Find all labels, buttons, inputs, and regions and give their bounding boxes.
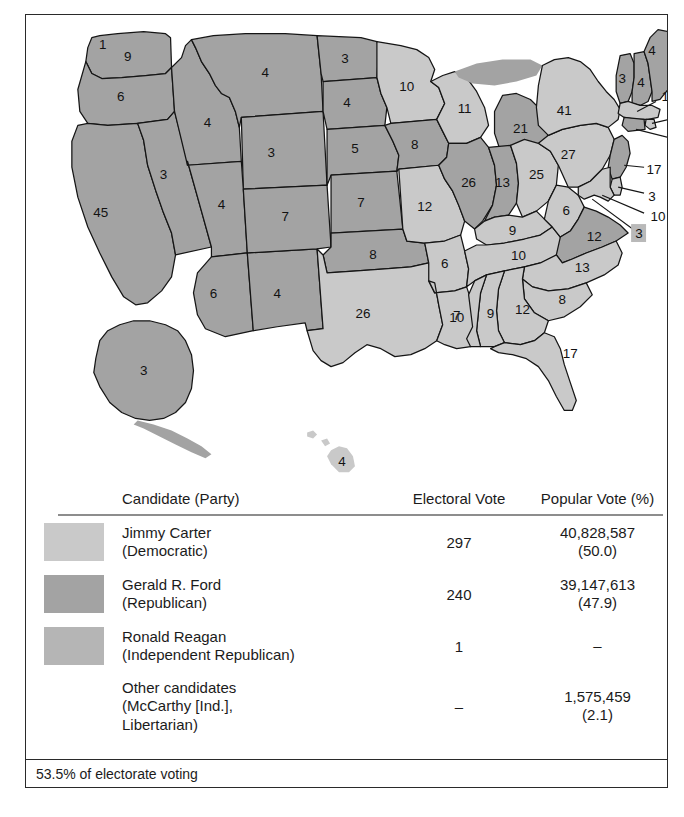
ev-label-nd: 3 bbox=[341, 51, 348, 66]
ev-label-sd: 4 bbox=[343, 95, 351, 110]
popular-vote-cell-carter: 40,828,587 (50.0) bbox=[528, 516, 667, 568]
popular-pct-carter: (50.0) bbox=[528, 542, 667, 560]
header-electoral-vote: Electoral Vote bbox=[390, 476, 528, 514]
ev-label-az: 6 bbox=[210, 286, 217, 301]
candidate-cell-carter: Jimmy Carter (Democratic) bbox=[122, 516, 390, 568]
ev-label-nv: 3 bbox=[160, 167, 167, 182]
ev-label-ia: 8 bbox=[411, 137, 418, 152]
ev-label-pa: 27 bbox=[561, 147, 576, 162]
legend-swatch-cell-other bbox=[26, 672, 122, 741]
popular-vote-cell-ford: 39,147,613 (47.9) bbox=[528, 568, 667, 620]
legend-swatch-reagan bbox=[44, 627, 104, 665]
legend-swatch-cell-reagan bbox=[26, 620, 122, 672]
popular-votes-ford: 39,147,613 bbox=[528, 576, 667, 594]
ev-label-me: 4 bbox=[648, 43, 656, 58]
header-popular-vote: Popular Vote (%) bbox=[528, 476, 667, 514]
ev-label-nm: 4 bbox=[273, 286, 281, 301]
candidate-party-carter: (Democratic) bbox=[122, 542, 390, 560]
candidate-party-other: (McCarthy [Ind.], bbox=[122, 697, 390, 715]
table-row: Gerald R. Ford (Republican) 240 39,147,6… bbox=[26, 568, 667, 620]
table-row: Ronald Reagan (Independent Republican) 1… bbox=[26, 620, 667, 672]
ev-label-ak: 3 bbox=[140, 363, 147, 378]
table-row: Other candidates (McCarthy [Ind.], Liber… bbox=[26, 672, 667, 741]
callout-line-de bbox=[618, 187, 644, 193]
table-header-row: Candidate (Party) Electoral Vote Popular… bbox=[26, 476, 667, 514]
popular-vote-cell-other: 1,575,459 (2.1) bbox=[528, 672, 667, 741]
candidate-name-reagan: Ronald Reagan bbox=[122, 628, 390, 646]
ev-label-ar: 6 bbox=[441, 256, 448, 271]
ev-label-vt: 3 bbox=[618, 71, 625, 86]
ev-label-ms: 7 bbox=[453, 308, 460, 323]
state-ri bbox=[645, 119, 656, 129]
legend-swatch-cell-carter bbox=[26, 516, 122, 568]
state-az bbox=[193, 253, 253, 337]
popular-vote-reagan: – bbox=[528, 620, 667, 672]
ev-label-wa: 9 bbox=[124, 49, 131, 64]
ev-label-co: 7 bbox=[281, 209, 288, 224]
ev-label-mt: 4 bbox=[262, 65, 270, 80]
candidate-name-ford: Gerald R. Ford bbox=[122, 576, 390, 594]
ev-label-in: 13 bbox=[495, 175, 510, 190]
ev-label-ga: 12 bbox=[515, 302, 530, 317]
ev-label-dc: 3 bbox=[635, 226, 642, 241]
state-ak-aleutians bbox=[134, 420, 212, 458]
ev-label-oh: 25 bbox=[529, 167, 544, 182]
popular-pct-ford: (47.9) bbox=[528, 594, 667, 612]
ev-label-va: 12 bbox=[587, 229, 602, 244]
ev-label-nj: 17 bbox=[647, 162, 662, 177]
state-ny bbox=[536, 58, 620, 136]
candidate-cell-reagan: Ronald Reagan (Independent Republican) bbox=[122, 620, 390, 672]
ev-label-wv: 6 bbox=[563, 203, 570, 218]
state-sd bbox=[323, 78, 387, 130]
ev-label-wi: 11 bbox=[458, 101, 472, 116]
state-nm bbox=[247, 249, 323, 331]
ev-label-mi: 21 bbox=[513, 121, 528, 136]
table-row: Jimmy Carter (Democratic) 297 40,828,587… bbox=[26, 516, 667, 568]
us-map-svg: 1 9 6 45 3 4 4 3 4 6 4 7 3 4 5 7 8 26 10… bbox=[26, 15, 667, 476]
state-ct bbox=[622, 117, 645, 131]
ev-label-wy: 3 bbox=[267, 145, 274, 160]
ev-label-ok: 8 bbox=[369, 247, 376, 262]
callout-line-nj bbox=[624, 165, 644, 167]
candidate-party-reagan: (Independent Republican) bbox=[122, 646, 390, 664]
ev-label-wa-split: 1 bbox=[99, 37, 106, 52]
popular-votes-other: 1,575,459 bbox=[528, 688, 667, 706]
turnout-footnote: 53.5% of electorate voting bbox=[26, 760, 667, 789]
electoral-vote-other: – bbox=[390, 672, 528, 741]
legend-swatch-carter bbox=[44, 523, 104, 561]
ev-label-id: 4 bbox=[204, 115, 212, 130]
ev-label-ks: 7 bbox=[357, 195, 364, 210]
ev-label-ky: 9 bbox=[509, 223, 516, 238]
electoral-vote-ford: 240 bbox=[390, 568, 528, 620]
ev-label-ca: 45 bbox=[93, 205, 108, 220]
candidate-name-carter: Jimmy Carter bbox=[122, 524, 390, 542]
candidate-name-other: Other candidates bbox=[122, 679, 390, 697]
electoral-vote-reagan: 1 bbox=[390, 620, 528, 672]
ev-label-mo: 12 bbox=[417, 199, 432, 214]
state-fl bbox=[491, 333, 577, 411]
popular-pct-other: (2.1) bbox=[528, 706, 667, 724]
ev-label-ma: 14 bbox=[662, 89, 667, 104]
candidate-cell-other: Other candidates (McCarthy [Ind.], Liber… bbox=[122, 672, 390, 741]
ev-label-sc: 8 bbox=[559, 292, 566, 307]
ev-label-ne: 5 bbox=[351, 141, 358, 156]
popular-votes-carter: 40,828,587 bbox=[528, 524, 667, 542]
us-electoral-map: 1 9 6 45 3 4 4 3 4 6 4 7 3 4 5 7 8 26 10… bbox=[26, 15, 667, 476]
electoral-vote-carter: 297 bbox=[390, 516, 528, 568]
election-results-table: Candidate (Party) Electoral Vote Popular… bbox=[26, 476, 667, 741]
candidate-party2-other: Libertarian) bbox=[122, 716, 390, 734]
ev-label-il: 26 bbox=[461, 175, 476, 190]
ev-label-nh: 4 bbox=[637, 75, 645, 90]
candidate-cell-ford: Gerald R. Ford (Republican) bbox=[122, 568, 390, 620]
ev-label-fl: 17 bbox=[563, 346, 578, 361]
ev-label-md: 10 bbox=[651, 209, 666, 224]
legend-swatch-ford bbox=[44, 575, 104, 613]
ev-label-ut: 4 bbox=[218, 197, 226, 212]
header-candidate: Candidate (Party) bbox=[122, 476, 390, 514]
results-table-area: Candidate (Party) Electoral Vote Popular… bbox=[26, 476, 667, 789]
candidate-party-ford: (Republican) bbox=[122, 594, 390, 612]
callout-line-ct bbox=[636, 129, 667, 137]
ev-label-hi: 4 bbox=[338, 454, 346, 469]
ev-label-al: 9 bbox=[487, 306, 494, 321]
ev-label-nc: 13 bbox=[575, 260, 590, 275]
